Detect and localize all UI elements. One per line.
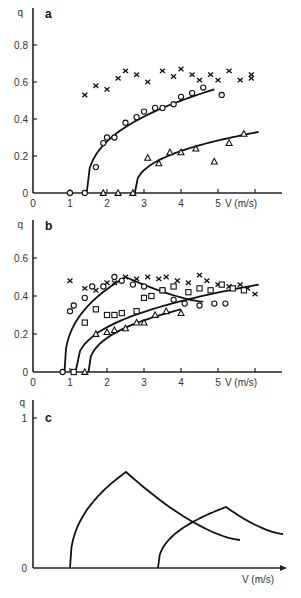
triangles-fit — [135, 132, 259, 193]
squares-fit — [76, 285, 259, 372]
y-tick-label: 0 — [22, 188, 28, 199]
curve-2 — [158, 507, 283, 568]
series-crosses — [82, 67, 254, 97]
x-axis-label: V (m/s) — [225, 198, 257, 209]
figure: qa00.20.40.60.8012345V (m/s) qb00.20.40.… — [0, 0, 301, 598]
y-tick-label: 0.6 — [14, 77, 28, 88]
x-axis-label: V (m/s) — [225, 377, 257, 388]
y-axis-label: q — [17, 219, 23, 230]
panel-label: c — [45, 411, 52, 425]
y-tick-label: 0 — [21, 563, 27, 574]
curve-1 — [70, 472, 240, 568]
panel-a: qa00.20.40.60.8012345V (m/s) — [14, 7, 282, 209]
y-axis-label: q — [19, 397, 25, 408]
panel-b: qb00.20.40.6012345V (m/s) — [14, 219, 282, 388]
y-tick-label: 0.4 — [14, 291, 28, 302]
x-tick-label: 0 — [30, 377, 36, 388]
panel-label: a — [45, 7, 52, 21]
x-tick-label: 5 — [215, 377, 221, 388]
series-triangles — [100, 131, 247, 196]
panel-c: q10cV (m/s) — [19, 397, 287, 585]
x-tick-label: 2 — [104, 198, 110, 209]
y-tick-label: 0.6 — [14, 253, 28, 264]
y-tick-label: 0.4 — [14, 114, 28, 125]
x-axis-arrow-icon — [280, 565, 287, 571]
y-tick-label: 0.8 — [14, 40, 28, 51]
y-tick-label: 1 — [21, 413, 27, 424]
y-tick-label: 0 — [22, 367, 28, 378]
y-tick-label: 0.2 — [14, 151, 28, 162]
x-tick-label: 4 — [178, 198, 184, 209]
x-tick-label: 1 — [67, 377, 73, 388]
y-axis-label: q — [17, 7, 23, 18]
y-tick-label: 0.2 — [14, 329, 28, 340]
series-circles — [67, 85, 224, 196]
x-tick-label: 0 — [30, 198, 36, 209]
triangles-fit — [89, 309, 182, 372]
x-tick-label: 3 — [141, 198, 147, 209]
panel-label: b — [45, 219, 52, 233]
x-tick-label: 2 — [104, 377, 110, 388]
x-tick-label: 1 — [67, 198, 73, 209]
x-tick-label: 5 — [215, 198, 221, 209]
x-tick-label: 3 — [141, 377, 147, 388]
x-tick-label: 4 — [178, 377, 184, 388]
series-triangles — [82, 308, 184, 374]
x-axis-label: V (m/s) — [242, 574, 274, 585]
